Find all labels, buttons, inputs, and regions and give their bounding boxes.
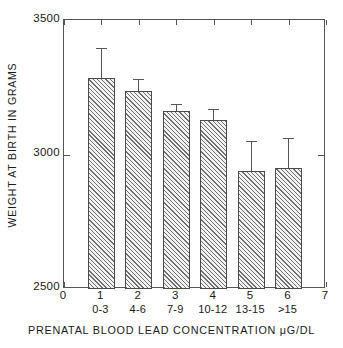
bar-4-6	[125, 91, 152, 289]
x-tick-label-1: 1	[97, 290, 104, 302]
x-tick-label-7: 7	[322, 290, 329, 302]
error-bar-stem->15	[288, 138, 289, 168]
bar-13-15	[238, 171, 265, 289]
y-axis-title-text: WEIGHT AT BIRTH IN GRAMS	[6, 63, 18, 228]
x-axis-title: PRENATAL BLOOD LEAD CONCENTRATION μG/DL	[0, 324, 343, 336]
error-bar-cap-7-9	[171, 104, 182, 105]
x-tick-label-4: 4	[209, 290, 216, 302]
x-axis-tick-bottom	[64, 282, 65, 287]
y-tick-label-3500: 3500	[20, 13, 60, 25]
x-category-label-7-9: 7-9	[167, 304, 184, 315]
x-axis-tick-top	[214, 20, 215, 25]
bar-chart-figure: WEIGHT AT BIRTH IN GRAMS 3500 3000 2500 …	[0, 0, 343, 348]
x-axis-tick-top	[176, 20, 177, 25]
x-category-label-0-3: 0-3	[92, 304, 109, 315]
x-axis-category-labels: 0-34-67-910-1213-15>15	[0, 304, 343, 318]
x-category-label-4-6: 4-6	[130, 304, 147, 315]
error-bar-cap-10-12	[208, 109, 219, 110]
error-bar-stem-10-12	[213, 109, 214, 120]
y-tick-label-3000: 3000	[20, 147, 60, 159]
x-axis-tick-top	[289, 20, 290, 25]
x-axis-tick-top	[101, 20, 102, 25]
x-axis-tick-top	[326, 20, 327, 25]
bar-7-9	[163, 111, 190, 289]
bar-0-3	[88, 78, 115, 289]
y-axis-tick-labels: 3500 3000 2500	[18, 0, 60, 300]
error-bar-cap-4-6	[133, 79, 144, 80]
x-axis-tick-top	[139, 20, 140, 25]
x-axis-tick-top	[251, 20, 252, 25]
x-tick-label-2: 2	[135, 290, 142, 302]
plot-area	[63, 19, 325, 288]
error-bar-cap-0-3	[96, 48, 107, 49]
error-bar-cap-13-15	[246, 141, 257, 142]
bar->15	[275, 168, 302, 289]
bar-10-12	[200, 120, 227, 289]
x-axis-tick-labels: 01234567	[0, 290, 343, 304]
error-bar-stem-0-3	[101, 48, 102, 78]
y-axis-tick-left	[64, 155, 70, 156]
x-category-label-10-12: 10-12	[198, 304, 227, 315]
error-bar-stem-4-6	[138, 79, 139, 91]
x-category-label->15: >15	[278, 304, 297, 315]
x-tick-label-6: 6	[284, 290, 291, 302]
x-tick-label-0: 0	[60, 290, 67, 302]
x-tick-label-5: 5	[247, 290, 254, 302]
error-bar-stem-13-15	[251, 141, 252, 171]
x-category-label-13-15: 13-15	[236, 304, 265, 315]
x-axis-tick-bottom	[326, 282, 327, 287]
x-tick-label-3: 3	[172, 290, 179, 302]
y-axis-tick-right	[318, 155, 324, 156]
x-axis-tick-top	[64, 20, 65, 25]
error-bar-cap->15	[283, 138, 294, 139]
